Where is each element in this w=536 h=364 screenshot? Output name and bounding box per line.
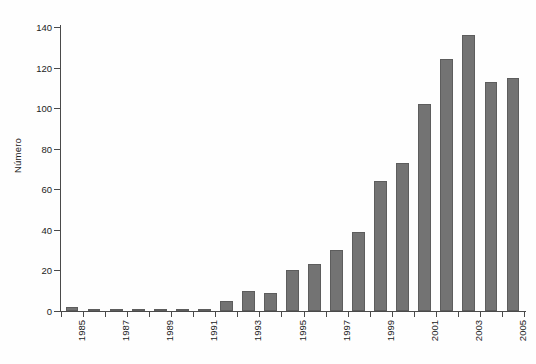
bar	[507, 78, 520, 311]
x-axis-tick	[436, 312, 437, 317]
x-axis-tick-label: 2003	[473, 320, 484, 341]
bar	[176, 309, 189, 311]
x-axis-tick	[348, 312, 349, 317]
y-axis-tick	[54, 270, 60, 271]
x-axis-tick	[259, 312, 260, 317]
x-axis-tick-label: 1989	[164, 320, 175, 341]
bar	[242, 291, 255, 311]
y-axis-tick-label: 120	[2, 62, 52, 73]
x-axis-tick	[304, 312, 305, 317]
bar	[308, 264, 321, 311]
x-axis-tick	[149, 312, 150, 317]
bar	[198, 309, 211, 311]
x-axis-tick-label: 1995	[297, 320, 308, 341]
x-axis-tick-label: 1985	[76, 320, 87, 341]
y-axis-tick	[54, 108, 60, 109]
x-axis-tick-label: 1999	[385, 320, 396, 341]
bar	[154, 309, 167, 311]
bar	[374, 181, 387, 311]
y-axis-tick	[54, 189, 60, 190]
x-axis-tick	[480, 312, 481, 317]
x-axis-tick	[502, 312, 503, 317]
x-axis-tick-label: 1993	[252, 320, 263, 341]
x-axis-tick	[281, 312, 282, 317]
plot-area	[61, 27, 524, 311]
y-axis-tick-label: 0	[2, 306, 52, 317]
bar	[66, 307, 79, 311]
x-axis-tick	[105, 312, 106, 317]
x-axis-tick	[193, 312, 194, 317]
y-axis-tick	[54, 149, 60, 150]
y-axis-tick	[54, 311, 60, 312]
y-axis-tick-label: 60	[2, 184, 52, 195]
x-axis-tick	[392, 312, 393, 317]
x-axis-tick	[237, 312, 238, 317]
bar	[132, 309, 145, 311]
y-axis-tick-label: 140	[2, 22, 52, 33]
y-axis-tick-label: 80	[2, 143, 52, 154]
bar	[286, 270, 299, 311]
bar	[485, 82, 498, 311]
x-axis-tick	[326, 312, 327, 317]
x-axis-tick	[370, 312, 371, 317]
bar	[352, 232, 365, 311]
x-axis-tick	[83, 312, 84, 317]
x-axis-tick-label: 1991	[208, 320, 219, 341]
x-axis-tick	[414, 312, 415, 317]
x-axis-line	[60, 311, 526, 312]
x-axis-tick	[215, 312, 216, 317]
y-axis-tick-label: 20	[2, 265, 52, 276]
bar	[330, 250, 343, 311]
bar-chart: Número 020406080100120140 19851987198919…	[0, 0, 536, 364]
bar	[396, 163, 409, 311]
bar	[264, 293, 277, 311]
y-axis-tick	[54, 230, 60, 231]
x-axis-tick-label: 1997	[341, 320, 352, 341]
y-axis-tick-label: 100	[2, 103, 52, 114]
y-axis-tick	[54, 68, 60, 69]
x-axis-tick	[524, 312, 525, 317]
y-axis-tick	[54, 27, 60, 28]
y-axis-tick-label: 40	[2, 224, 52, 235]
x-axis-tick	[171, 312, 172, 317]
x-axis-tick-label: 2001	[429, 320, 440, 341]
x-axis-tick-label: 2005	[517, 320, 528, 341]
bar	[110, 309, 123, 311]
bar	[440, 59, 453, 311]
x-axis-tick-label: 1987	[120, 320, 131, 341]
x-axis-tick	[127, 312, 128, 317]
bar	[88, 309, 101, 311]
bar	[462, 35, 475, 311]
bar	[418, 104, 431, 311]
x-axis-tick	[61, 312, 62, 317]
bar	[220, 301, 233, 311]
x-axis-tick	[458, 312, 459, 317]
